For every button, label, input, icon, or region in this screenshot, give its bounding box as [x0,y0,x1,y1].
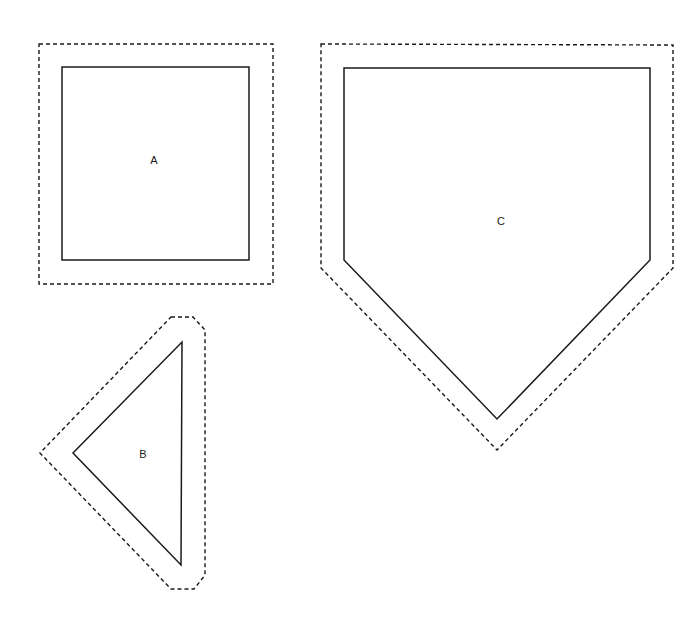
shape-c-pentagon[interactable] [344,68,650,419]
shape-b-group: B [40,317,205,589]
shape-a-label: A [150,154,158,166]
shape-c-label: C [497,215,505,227]
diagram-canvas: A B C [0,0,684,631]
shape-b-label: B [139,448,146,460]
shape-c-group: C [321,44,673,450]
shape-b-triangle[interactable] [73,342,182,565]
shape-a-group: A [39,44,273,284]
